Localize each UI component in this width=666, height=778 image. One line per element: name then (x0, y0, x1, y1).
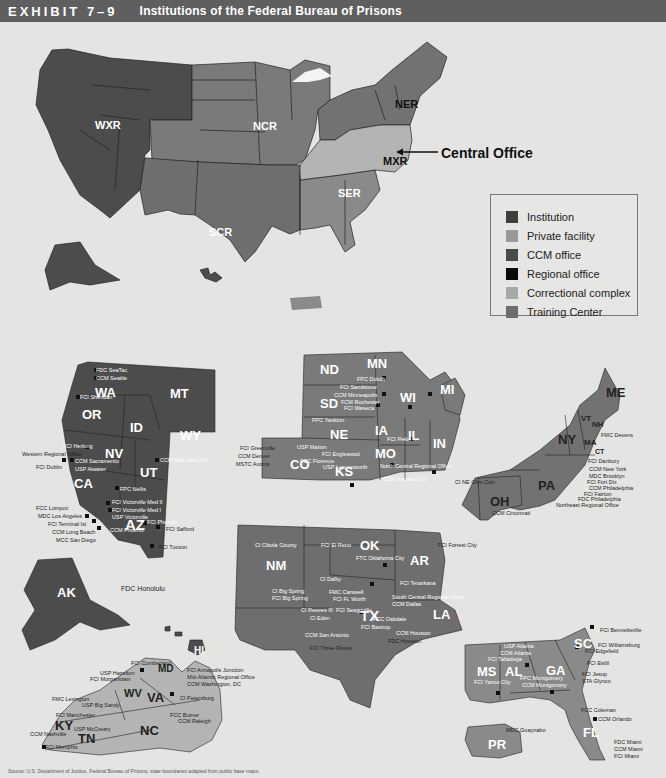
facility-label: FCC Lompoc (36, 505, 68, 511)
facility-label: FCI Phoenix (147, 519, 177, 525)
state-label-id: ID (130, 420, 143, 435)
facility-label: FTC Oklahoma City (356, 555, 404, 561)
facility-label: CCM Long Beach (52, 529, 95, 535)
training-center-swatch-icon (506, 306, 518, 318)
facility-label: FCI Pekin (387, 436, 411, 442)
state-label-ok: OK (360, 538, 380, 553)
region-alaska-overview (45, 242, 120, 290)
region-label-mxr: MXR (383, 155, 407, 167)
legend-item-correctional-complex: Correctional complex (506, 283, 637, 302)
state-label-tn: TN (78, 731, 95, 746)
facility-label: CCM Cincinnati (492, 510, 530, 516)
facility-label: CCM Kansas City (383, 476, 426, 482)
state-label-mt: MT (170, 386, 189, 401)
facility-label: CI Cibola County (255, 542, 297, 548)
facility-label: FCI El Reno (321, 542, 351, 548)
facility-label: CCM Sacramento (75, 458, 119, 464)
state-label-pr: PR (488, 737, 506, 752)
facility-label: FMC Devens (601, 432, 633, 438)
state-label-ca: CA (74, 476, 93, 491)
state-label-wi: WI (400, 390, 416, 405)
facility-label: USP Atlanta (504, 643, 534, 649)
facility-label: FCI Miami (614, 753, 639, 759)
state-label-nc: NC (140, 723, 159, 738)
state-label-ne: NE (330, 427, 348, 442)
legend-item-private-facility: Private facility (506, 226, 637, 245)
facility-label: USP McCreary (74, 726, 111, 732)
state-label-mo: MO (375, 446, 396, 461)
region-mxr (300, 125, 412, 180)
institution-swatch-icon (506, 211, 518, 223)
facility-label: USP Victorville (112, 514, 148, 520)
facility-label: CCM Houston (396, 630, 431, 636)
facility-label: CI Petersburg (180, 695, 214, 701)
private-facility-swatch-icon (506, 230, 518, 242)
region-label-scr: SCR (209, 226, 232, 238)
facility-label: CCM New York (589, 466, 626, 472)
region-ser (300, 170, 380, 252)
facility-label: FCI Waseca (344, 405, 374, 411)
regional-office-swatch-icon (506, 268, 518, 280)
state-label-oh: OH (490, 494, 510, 509)
facility-label: Mid-Atlantic Regional Office (187, 674, 255, 680)
facility-label: FCI Bennettsville (600, 627, 642, 633)
facility-label: FCI Three Rivers (310, 645, 352, 651)
facility-label: CCM Dallas (392, 601, 421, 607)
state-label-wv: WV (124, 687, 142, 699)
facility-label: MCC San Diego (56, 537, 96, 543)
facility-label: FDC Honolulu (121, 585, 165, 592)
facility-label: FCI Englewood (322, 451, 360, 457)
facility-label: USP Leavenworth (323, 464, 367, 470)
facility-label: FCI Victorville Med II (112, 499, 163, 505)
facility-label: FCI Greenville (240, 445, 275, 451)
facility-label: CCM Orlando (598, 716, 632, 722)
central-office-label: Central Office (441, 145, 533, 161)
state-label-sd: SD (320, 396, 338, 411)
facility-label: CCM Raleigh (178, 718, 211, 724)
facility-label: CCM Phoenix (110, 527, 144, 533)
state-label-nh: NH (592, 420, 604, 429)
state-label-mi: MI (440, 382, 454, 397)
region-label-ncr: NCR (253, 120, 277, 132)
state-label-wy: WY (180, 428, 201, 443)
facility-label: FPC Montgomery (520, 675, 563, 681)
facility-label: MSTC Aurora (236, 461, 269, 467)
facility-label: CCM Washington, DC (187, 681, 241, 687)
state-label-ak: AK (57, 585, 76, 600)
facility-label: FMC Carswell (329, 589, 364, 595)
facility-label: FDC Houston (388, 638, 421, 644)
state-label-va: VA (147, 690, 164, 705)
facility-label: CI Big Spring (272, 588, 304, 594)
facility-label: FCI Big Spring (272, 595, 308, 601)
facility-label: FCI Talladega (488, 656, 522, 662)
alaska-detail (22, 558, 130, 650)
facility-label: FCI Cumberland (131, 660, 171, 666)
facility-label: FCI Tucson (159, 544, 187, 550)
facility-label: FCI Sheridan (80, 394, 112, 400)
facility-label: South Central Regional Office (392, 594, 465, 600)
region-label-ner: NER (395, 98, 418, 110)
facility-label: FCI Seagoville (336, 607, 372, 613)
facility-label: USP Atwater (75, 466, 106, 472)
facility-label: Western Regional Office (22, 451, 81, 457)
state-label-pa: PA (538, 478, 555, 493)
facility-label: CCM San Antonio (305, 632, 349, 638)
state-label-fl: FL (583, 725, 599, 740)
state-label-ms: MS (477, 664, 497, 679)
legend-item-ccm-office: CCM office (506, 245, 637, 264)
region-label-ser: SER (338, 187, 361, 199)
state-label-hi: HI (194, 645, 204, 656)
facility-label: FCI Ft. Worth (333, 596, 366, 602)
facility-label: FCI Texarkana (400, 580, 436, 586)
facility-label: CCM Nashville (30, 731, 66, 737)
facility-label: FCC Coleman (581, 707, 616, 713)
overview-map (36, 42, 447, 310)
facility-label: CCM Montgomery (522, 682, 567, 688)
state-label-ct: CT (595, 448, 604, 455)
facility-label: FCI Manchester (56, 712, 95, 718)
region-hawaii-overview (200, 268, 222, 282)
state-label-nm: NM (266, 558, 286, 573)
facility-label: FCI Victorville Med I (112, 507, 161, 513)
facility-label: Northeast Regional Office (556, 502, 619, 508)
facility-label: CI Eden (310, 615, 330, 621)
